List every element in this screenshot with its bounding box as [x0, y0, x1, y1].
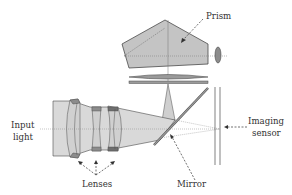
- label-imaging-sensor-2: sensor: [252, 128, 282, 138]
- focusing-screen: [129, 75, 208, 84]
- label-mirror: Mirror: [177, 179, 207, 189]
- prism: [122, 20, 228, 82]
- camera-optics-diagram: Prism Input light Imaging sensor Lenses …: [0, 0, 292, 195]
- reflected-light-cone: [162, 84, 175, 121]
- eyepiece-lens: [215, 47, 221, 63]
- label-input-light-1: Input: [11, 120, 35, 130]
- label-imaging-sensor-1: Imaging: [248, 116, 284, 126]
- label-prism: Prism: [206, 11, 231, 21]
- lenses: [67, 99, 122, 158]
- imaging-sensor: [215, 87, 220, 165]
- label-input-light-2: light: [13, 132, 34, 142]
- label-lenses: Lenses: [82, 179, 112, 189]
